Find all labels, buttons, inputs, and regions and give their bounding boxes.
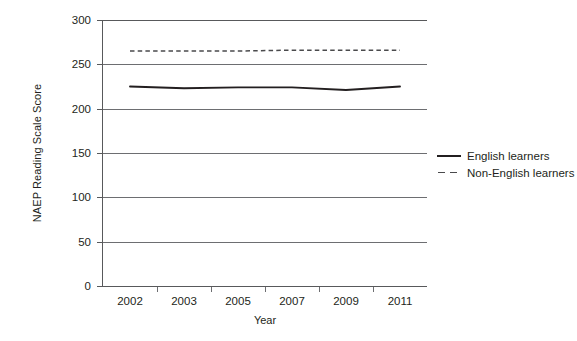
x-tick-label: 2011 [370, 295, 430, 308]
y-tick-label: 200 [55, 103, 91, 115]
series-lines [103, 20, 427, 286]
y-tick-label: 150 [55, 147, 91, 159]
x-tick-label: 2009 [316, 295, 376, 308]
y-tick-label: 300 [55, 14, 91, 26]
x-tick-mark [265, 287, 266, 292]
y-axis-title: NAEP Reading Scale Score [26, 20, 48, 286]
legend-item-english-learners: English learners [437, 146, 577, 163]
x-tick-label: 2002 [100, 295, 160, 308]
legend-swatch-dashed-icon [437, 168, 461, 178]
x-tick-label: 2003 [154, 295, 214, 308]
plot-area [103, 20, 427, 286]
chart-figure: NAEP Reading Scale Score 050100150200250… [0, 0, 577, 341]
x-axis-title: Year [103, 314, 427, 326]
legend-label-english-learners: English learners [467, 150, 549, 162]
series-line-english-learners [130, 87, 400, 91]
y-tick-label: 100 [55, 191, 91, 203]
legend-item-non-english-learners: Non-English learners [437, 163, 577, 180]
legend-label-non-english-learners: Non-English learners [467, 167, 574, 179]
chart-legend: English learners Non-English learners [437, 146, 577, 180]
x-tick-label: 2005 [208, 295, 268, 308]
x-tick-mark [211, 287, 212, 292]
series-line-non-english-learners [130, 50, 400, 51]
x-tick-label: 2007 [262, 295, 322, 308]
y-tick-label: 0 [55, 280, 91, 292]
x-tick-mark [319, 287, 320, 292]
legend-swatch-solid-icon [437, 151, 461, 161]
x-tick-mark [373, 287, 374, 292]
y-tick-label: 250 [55, 58, 91, 70]
x-tick-mark [157, 287, 158, 292]
y-tick-label: 50 [55, 236, 91, 248]
